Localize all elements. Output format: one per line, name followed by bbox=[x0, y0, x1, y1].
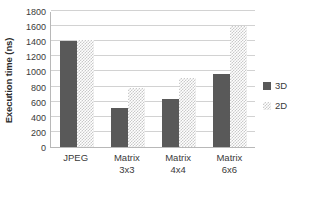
y-axis-tick-label: 200 bbox=[31, 128, 46, 138]
y-axis-tick-label: 0 bbox=[41, 143, 46, 153]
bar-2d-matrix-6x6 bbox=[230, 26, 247, 147]
plot-area bbox=[50, 12, 255, 148]
bar-2d-jpeg bbox=[77, 40, 94, 147]
y-axis-tick-labels: 020040060080010001200140016001800 bbox=[18, 12, 48, 148]
legend-item-2d[interactable]: 2D bbox=[263, 100, 311, 111]
bar-group bbox=[204, 12, 255, 147]
bar-3d-matrix-3x3 bbox=[111, 108, 128, 147]
legend-item-3d[interactable]: 3D bbox=[263, 80, 311, 91]
legend-swatch-icon bbox=[263, 82, 271, 90]
x-axis-tick-label: Matrix4x4 bbox=[153, 152, 204, 196]
y-axis-tick-label: 1200 bbox=[26, 52, 46, 62]
gridline bbox=[51, 10, 255, 11]
x-axis-tick-label: Matrix6x6 bbox=[204, 152, 255, 196]
legend-label: 3D bbox=[275, 80, 287, 91]
y-axis-tick-label: 1600 bbox=[26, 22, 46, 32]
y-axis-tick-label: 1800 bbox=[26, 7, 46, 17]
legend-swatch-icon bbox=[263, 102, 271, 110]
chart-legend: 3D2D bbox=[263, 80, 311, 120]
bar-chart: Execution time (ns) 02004006008001000120… bbox=[0, 0, 313, 200]
y-axis-title-text: Execution time (ns) bbox=[4, 37, 15, 123]
bar-2d-matrix-3x3 bbox=[128, 88, 145, 147]
bars-layer bbox=[51, 12, 255, 147]
bar-3d-jpeg bbox=[60, 41, 77, 147]
y-axis-tick-label: 400 bbox=[31, 113, 46, 123]
x-axis-tick-labels: JPEGMatrix3x3Matrix4x4Matrix6x6 bbox=[50, 152, 255, 196]
x-axis-tick-label: Matrix3x3 bbox=[101, 152, 152, 196]
bar-group bbox=[153, 12, 204, 147]
bar-group bbox=[102, 12, 153, 147]
x-axis-tick-label: JPEG bbox=[50, 152, 101, 196]
y-axis-tick-label: 600 bbox=[31, 98, 46, 108]
y-axis-title: Execution time (ns) bbox=[0, 0, 18, 160]
y-axis-tick-label: 1000 bbox=[26, 67, 46, 77]
y-axis-tick-label: 800 bbox=[31, 83, 46, 93]
bar-2d-matrix-4x4 bbox=[179, 78, 196, 147]
legend-label: 2D bbox=[275, 100, 287, 111]
bar-3d-matrix-6x6 bbox=[213, 74, 230, 147]
bar-group bbox=[51, 12, 102, 147]
y-axis-tick-label: 1400 bbox=[26, 37, 46, 47]
bar-3d-matrix-4x4 bbox=[162, 99, 179, 147]
